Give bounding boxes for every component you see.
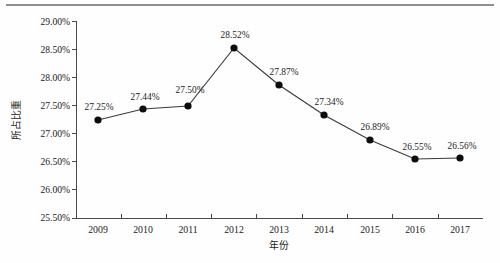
data-point-2015[interactable]	[366, 136, 373, 143]
data-label-2013: 27.87%	[270, 67, 299, 77]
x-tick-label-2016: 2016	[405, 224, 425, 235]
x-tick-label-2012: 2012	[224, 224, 244, 235]
y-tick-label: 27.50%	[40, 100, 70, 111]
y-tick-label: 27.00%	[40, 128, 70, 139]
data-label-2009: 27.25%	[85, 102, 114, 112]
data-label-2011: 27.50%	[176, 85, 205, 95]
data-point-2016[interactable]	[411, 155, 418, 162]
data-label-2010: 27.44%	[131, 92, 160, 102]
y-tick-label: 26.50%	[40, 156, 70, 167]
x-tick-label-2010: 2010	[133, 224, 153, 235]
x-tick-label-2011: 2011	[178, 224, 197, 235]
data-label-2015: 26.89%	[361, 122, 390, 132]
y-tick-label: 26.00%	[40, 184, 70, 195]
x-axis-title: 年份	[269, 239, 289, 251]
data-labels: 27.25% 27.44% 27.50% 28.52% 27.87% 27.34…	[85, 30, 477, 152]
axes	[76, 21, 483, 218]
data-point-2014[interactable]	[320, 111, 327, 118]
y-tick-label: 29.00%	[40, 16, 70, 27]
data-point-2017[interactable]	[456, 154, 463, 161]
x-tick-label-2015: 2015	[360, 224, 380, 235]
x-tick-label-2017: 2017	[450, 224, 470, 235]
y-axis-tick-labels: 29.00% 28.50% 28.00% 27.50% 27.00% 26.50…	[40, 16, 70, 223]
y-axis-ticks	[72, 21, 76, 218]
data-point-2009[interactable]	[94, 116, 101, 123]
chart-screenshot: 所占比重 29.00% 28.50% 28.00% 27.50% 27.00% …	[0, 0, 500, 263]
x-tick-label-2014: 2014	[314, 224, 334, 235]
y-tick-label: 25.50%	[40, 212, 70, 223]
x-tick-label-2013: 2013	[269, 224, 289, 235]
data-point-2011[interactable]	[184, 102, 191, 109]
y-tick-label: 28.00%	[40, 72, 70, 83]
line-chart: 所占比重 29.00% 28.50% 28.00% 27.50% 27.00% …	[0, 0, 500, 263]
y-axis-title-text: 所占比重	[10, 100, 22, 140]
data-label-2014: 27.34%	[315, 97, 344, 107]
x-axis-ticks	[121, 214, 438, 218]
data-label-2012: 28.52%	[221, 30, 250, 40]
y-axis-title: 所占比重	[10, 100, 22, 140]
data-label-2016: 26.55%	[403, 142, 432, 152]
data-label-2017: 26.56%	[448, 141, 477, 151]
data-point-2012[interactable]	[230, 44, 237, 51]
x-axis-tick-labels: 2009 2010 2011 2012 2013 2014 2015 2016 …	[88, 224, 470, 235]
chart-canvas: 所占比重 29.00% 28.50% 28.00% 27.50% 27.00% …	[0, 0, 500, 263]
data-point-2010[interactable]	[139, 105, 146, 112]
data-point-2013[interactable]	[275, 81, 282, 88]
x-tick-label-2009: 2009	[88, 224, 108, 235]
y-tick-label: 28.50%	[40, 44, 70, 55]
